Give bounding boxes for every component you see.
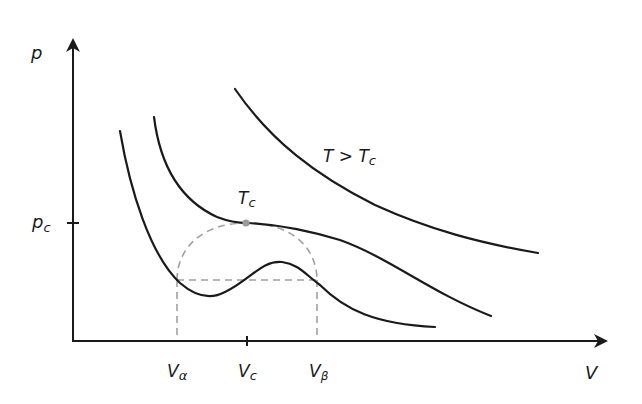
v-alpha-label: Vα <box>167 361 188 383</box>
coexistence-region <box>177 223 317 340</box>
axes <box>66 38 608 348</box>
above-critical-sub: c <box>369 153 376 168</box>
pc-label: pc <box>31 211 51 235</box>
tc-label: Tc <box>238 188 256 210</box>
v-alpha-sub: α <box>179 368 188 383</box>
tc-sub: c <box>248 195 255 210</box>
pc-label-main: p <box>31 211 43 232</box>
critical-point <box>242 219 249 226</box>
above-critical-label: T > Tc <box>323 146 376 168</box>
pv-diagram: p V pc Vα Vc Vβ Tc T > Tc <box>0 0 642 404</box>
vc-label: Vc <box>238 361 257 383</box>
pc-label-sub: c <box>43 220 50 235</box>
v-beta-sub: β <box>320 369 329 383</box>
isotherms <box>120 89 538 327</box>
isotherm-below-critical <box>120 131 435 327</box>
y-axis-label: p <box>30 42 42 63</box>
above-critical-main: T > T <box>323 146 370 166</box>
vc-sub: c <box>250 368 257 383</box>
coexistence-dome <box>177 223 317 280</box>
v-beta-label: Vβ <box>309 361 329 383</box>
x-axis-label: V <box>585 362 599 383</box>
